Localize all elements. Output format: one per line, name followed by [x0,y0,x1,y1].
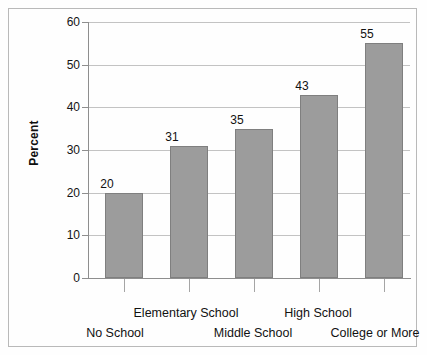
x-tick-mark-4 [319,279,320,292]
y-tick-label-50: 50 [40,59,80,71]
bar-high-school[interactable] [300,95,338,278]
plot-area [88,22,410,278]
bar-value-label-middle-school: 35 [216,114,258,127]
bar-middle-school[interactable] [235,129,273,278]
bar-value-label-elementary-school: 31 [151,131,193,144]
x-category-label-no-school: No School [60,326,170,340]
x-category-label-high-school: High School [258,306,378,320]
bar-elementary-school[interactable] [170,146,208,278]
gridline-40 [88,107,410,108]
x-tick-mark-3 [254,279,255,292]
bar-college-or-more[interactable] [365,43,403,278]
bar-value-label-high-school: 43 [281,80,323,93]
x-axis-line [88,278,411,279]
gridline-50 [88,65,410,66]
y-tick-label-20: 20 [40,187,80,199]
bar-no-school[interactable] [105,193,143,278]
x-category-label-middle-school: Middle School [188,326,318,340]
x-tick-mark-2 [189,279,190,292]
y-tick-label-40: 40 [40,101,80,113]
x-tick-mark-1 [124,279,125,292]
y-axis-line [88,22,89,279]
y-axis-tick-labels: 60 50 40 30 20 10 0 [36,0,80,355]
y-tick-label-60: 60 [40,16,80,28]
y-tick-label-0: 0 [40,272,80,284]
y-tick-label-10: 10 [40,229,80,241]
x-category-label-college-or-more: College or More [310,326,427,340]
chart-figure: Percent 60 50 40 30 20 10 0 20 31 35 43 … [0,0,427,355]
x-tick-mark-5 [384,279,385,292]
gridline-60 [88,22,410,23]
y-tick-label-30: 30 [40,144,80,156]
bar-value-label-college-or-more: 55 [346,28,388,41]
bar-value-label-no-school: 20 [86,178,128,191]
x-category-label-elementary-school: Elementary School [116,306,256,320]
